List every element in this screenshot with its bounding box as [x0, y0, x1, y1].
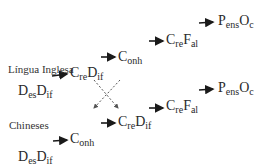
node-pensoc-top: PensOc [218, 14, 254, 28]
arrow-icon [199, 22, 213, 23]
group-label-lingua-inglesa: Língua Inglesa [8, 63, 74, 75]
node-credif-bottom: CreDif [118, 115, 151, 129]
node-desdif-bottom: DesDif [18, 150, 53, 164]
node-credif-top: CreDif [70, 66, 103, 80]
arrow-icon [53, 140, 67, 141]
node-conh-bottom: Conh [70, 132, 94, 146]
node-crefal-bottom: CreFal [166, 99, 198, 113]
node-conh-top: Conh [118, 50, 142, 64]
node-pensoc-bottom: PensOc [218, 81, 254, 95]
node-desdif-top: DesDif [18, 84, 53, 98]
group-label-chineses: Chineses [9, 119, 49, 131]
arrow-icon [199, 89, 213, 90]
node-crefal-top: CreFal [166, 33, 198, 47]
dashed-cross-arrows [94, 80, 120, 108]
